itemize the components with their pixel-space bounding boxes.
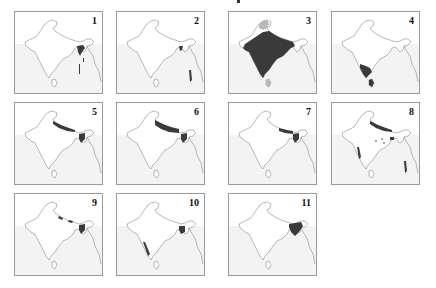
map-panel-9: 9 (14, 193, 103, 276)
india-map (229, 103, 317, 185)
map-panel-3: 3 (228, 11, 317, 94)
panel-number: 7 (306, 106, 311, 117)
map-panel-7: 7 (228, 102, 317, 185)
india-map (332, 12, 420, 94)
panel-number: 11 (302, 197, 311, 208)
map-panel-2: 2 (116, 11, 205, 94)
panel-number: 5 (92, 106, 97, 117)
india-map (229, 12, 317, 94)
map-panel-5: 5 (14, 102, 103, 185)
map-panel-1: 1 (14, 11, 103, 94)
india-map (117, 12, 205, 94)
panel-number: 10 (189, 197, 199, 208)
map-panel-11: 11 (228, 193, 317, 276)
map-panel-8: 8 (331, 102, 420, 185)
panel-number: 1 (92, 15, 97, 26)
panel-number: 2 (194, 15, 199, 26)
india-map (15, 12, 103, 94)
stray-mark (237, 0, 240, 3)
map-panel-6: 6 (116, 102, 205, 185)
panel-number: 8 (409, 106, 414, 117)
india-map (15, 194, 103, 276)
panel-number: 9 (92, 197, 97, 208)
india-map (117, 103, 205, 185)
india-map (332, 103, 420, 185)
map-panel-10: 10 (116, 193, 205, 276)
panel-number: 4 (409, 15, 414, 26)
map-panel-4: 4 (331, 11, 420, 94)
panel-number: 3 (306, 15, 311, 26)
india-map (15, 103, 103, 185)
panel-number: 6 (194, 106, 199, 117)
